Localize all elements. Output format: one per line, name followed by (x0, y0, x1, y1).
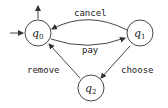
label-cancel: cancel (74, 8, 107, 18)
state-q2: q2 (78, 75, 104, 101)
edge-cancel (52, 20, 127, 30)
state-diagram: q0 q1 q2 cancel pay choose remove (0, 0, 168, 108)
state-q1: q1 (127, 20, 153, 46)
label-pay: pay (82, 45, 99, 55)
label-choose: choose (121, 65, 154, 75)
state-q0: q0 (25, 20, 51, 46)
label-remove: remove (27, 65, 60, 75)
